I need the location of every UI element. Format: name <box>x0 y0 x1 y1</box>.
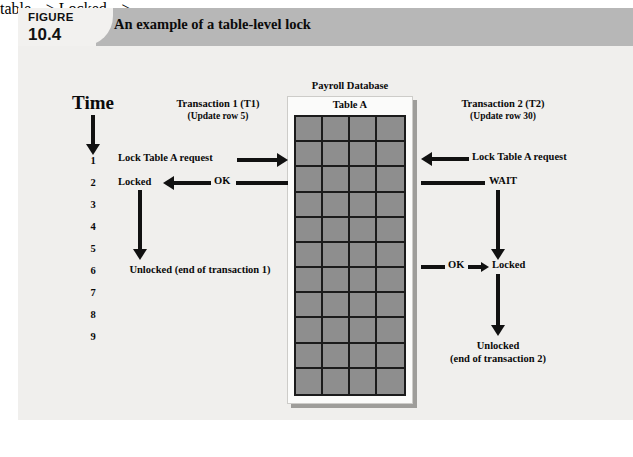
table-cell <box>296 167 323 192</box>
figure-label: FIGURE <box>28 11 74 23</box>
table-cell <box>296 218 323 243</box>
figure-header-band: FIGURE 10.4 An example of a table-level … <box>18 8 633 46</box>
transaction2-wait-label: WAIT <box>489 175 517 187</box>
table-cell <box>323 344 350 369</box>
transaction2-title: Transaction 2 (T2) <box>461 98 544 110</box>
transaction1-ok-arrow-shaft-left <box>173 181 211 185</box>
transaction2-wait-shaft <box>421 181 485 185</box>
table-cell <box>350 344 377 369</box>
transaction2-ok-label: OK <box>448 259 464 271</box>
transaction2-wait-lifeline-shaft <box>496 190 500 252</box>
table-grid <box>294 115 406 396</box>
table-cell <box>296 268 323 293</box>
transaction2-request-label: Lock Table A request <box>472 151 567 163</box>
time-tick-3: 3 <box>90 199 95 211</box>
transaction2-ok-arrow-head <box>481 262 489 272</box>
table-cell <box>377 193 404 218</box>
database-caption: Payroll Database <box>312 80 389 92</box>
transaction1-ok-label: OK <box>214 175 230 187</box>
table-cell <box>323 117 350 142</box>
transaction2-locked-lifeline-arrow-head <box>491 325 505 336</box>
table-cell <box>350 268 377 293</box>
table-cell <box>377 117 404 142</box>
time-tick-6: 6 <box>90 265 95 277</box>
transaction1-locked-label: Locked <box>118 176 151 188</box>
transaction1-lifeline-shaft <box>138 190 142 252</box>
transaction2-unlocked-label: Unlocked <box>477 340 520 352</box>
transaction1-request-arrow-shaft <box>237 158 279 162</box>
time-axis-arrow-shaft <box>91 115 95 147</box>
table-cell <box>350 117 377 142</box>
table-cell <box>350 218 377 243</box>
table-cell <box>377 142 404 167</box>
table-cell <box>323 369 350 394</box>
table-cell <box>323 218 350 243</box>
table-cell <box>377 167 404 192</box>
table-cell <box>323 243 350 268</box>
table-cell <box>350 193 377 218</box>
table-cell <box>296 369 323 394</box>
table-cell <box>323 293 350 318</box>
table-cell <box>377 243 404 268</box>
table-cell <box>296 293 323 318</box>
table-cell <box>296 344 323 369</box>
table-cell <box>377 344 404 369</box>
table-cell <box>323 193 350 218</box>
transaction1-lifeline-arrow-head <box>133 249 147 260</box>
table-name-caption: Table A <box>333 99 367 111</box>
time-tick-5: 5 <box>90 243 95 255</box>
table-cell <box>350 369 377 394</box>
table-cell <box>350 142 377 167</box>
table-cell <box>296 318 323 343</box>
time-axis-title: Time <box>72 92 114 114</box>
table-cell <box>377 318 404 343</box>
table-cell <box>296 142 323 167</box>
table-cell <box>350 243 377 268</box>
time-tick-1: 1 <box>90 155 95 167</box>
transaction1-request-label: Lock Table A request <box>118 152 213 164</box>
table-cell <box>377 293 404 318</box>
table-cell <box>377 369 404 394</box>
table-cell <box>350 318 377 343</box>
time-axis-arrow-head <box>86 144 100 155</box>
time-tick-7: 7 <box>90 287 95 299</box>
transaction2-locked-lifeline-shaft <box>496 274 500 328</box>
time-tick-9: 9 <box>90 331 95 343</box>
transaction2-request-arrow-shaft <box>431 157 469 161</box>
transaction1-unlocked-label: Unlocked (end of transaction 1) <box>129 264 270 276</box>
table-cell <box>323 142 350 167</box>
table-cell <box>350 293 377 318</box>
table-cell <box>323 268 350 293</box>
figure-number: 10.4 <box>28 25 61 45</box>
table-cell <box>296 117 323 142</box>
table-cell <box>377 218 404 243</box>
time-tick-2: 2 <box>90 177 95 189</box>
transaction1-title: Transaction 1 (T1) <box>176 98 259 110</box>
transaction1-request-arrow-head <box>277 153 288 167</box>
transaction1-ok-arrow-shaft-right <box>236 181 288 185</box>
transaction2-locked-label: Locked <box>492 259 525 271</box>
table-cell <box>377 268 404 293</box>
time-tick-8: 8 <box>90 309 95 321</box>
figure-container: FIGURE 10.4 An example of a table-level … <box>0 0 633 457</box>
transaction2-unlocked-sublabel: (end of transaction 2) <box>450 353 546 365</box>
time-tick-4: 4 <box>90 221 95 233</box>
figure-title: An example of a table-level lock <box>114 16 311 33</box>
table-cell <box>296 243 323 268</box>
table-cell <box>296 193 323 218</box>
transaction1-subtitle: (Update row 5) <box>187 111 248 122</box>
transaction2-subtitle: (Update row 30) <box>470 111 536 122</box>
table-cell <box>323 318 350 343</box>
table-cell <box>323 167 350 192</box>
table-cell <box>350 167 377 192</box>
transaction2-ok-arrow-shaft-left <box>421 265 445 269</box>
